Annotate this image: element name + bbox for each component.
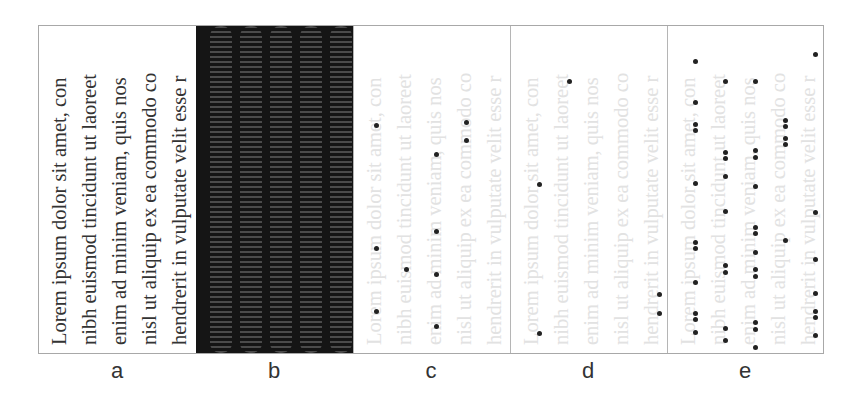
marker-dot [753,250,758,255]
rotated-faint-text-block: Lorem ipsum dolor sit amet, con nibh eui… [354,26,511,353]
marker-dot [537,182,542,187]
marker-dot [693,59,698,64]
figure: Lorem ipsum dolor sit amet, con nibh eui… [38,25,824,354]
text-line: nisl ut aliquip ex ea commodo co [606,73,636,345]
marker-dot [753,155,758,160]
panel-e-dots: Lorem ipsum dolor sit amet, con nibh eui… [667,26,825,353]
text-line: Lorem ipsum dolor sit amet, con [673,77,703,345]
marker-dot [723,174,728,179]
text-line: enim ad minim veniam, quis nos [419,77,449,345]
marker-dot [753,320,758,325]
marker-dot [753,274,758,279]
marker-dot [693,240,698,245]
text-line: nibh euismod tincidunt ut laoreet [389,74,419,345]
marker-dot [723,263,728,268]
marker-dot [567,79,572,84]
marker-dot [657,292,662,297]
rotated-text-block: Lorem ipsum dolor sit amet, con nibh eui… [39,26,196,353]
marker-dot [813,315,818,320]
marker-dot [723,79,728,84]
marker-dot [813,291,818,296]
marker-dot [783,142,788,147]
text-line: enim ad minim veniam, quis nos [104,77,134,345]
marker-dot [434,152,439,157]
marker-dot [537,331,542,336]
marker-dot [813,52,818,57]
panel-c-dots: Lorem ipsum dolor sit amet, con nibh eui… [353,26,511,353]
panel-b-fringe-image [196,26,353,353]
text-line: Lorem ipsum dolor sit amet, con [44,77,74,345]
fringe-stripe [270,26,292,353]
marker-dot [813,333,818,338]
panel-d-dots: Lorem ipsum dolor sit amet, con nibh eui… [510,26,668,353]
marker-dot [813,210,818,215]
marker-dot [693,246,698,251]
marker-dot [693,181,698,186]
text-line: Lorem ipsum dolor sit amet, con [516,77,546,345]
marker-dot [723,156,728,161]
marker-dot [783,136,788,141]
marker-dot [693,280,698,285]
marker-dot [693,100,698,105]
marker-dot [464,120,469,125]
text-line: hendrerit in vulputate velit esse r [479,76,509,345]
marker-dot [723,326,728,331]
marker-dot [813,257,818,262]
marker-dot [657,311,662,316]
marker-dot [693,330,698,335]
marker-dot [813,309,818,314]
text-line: hendrerit in vulputate velit esse r [793,76,823,345]
marker-dot [753,184,758,189]
marker-dot [374,246,379,251]
panel-label-d: d [568,358,608,384]
text-line: nibh euismod tincidunt ut laoreet [546,74,576,345]
text-line: nibh euismod tincidunt ut laoreet [703,74,733,345]
marker-dot [783,118,788,123]
text-line: hendrerit in vulputate velit esse r [164,76,194,345]
marker-dot [753,267,758,272]
fringe-stripe [330,26,352,353]
marker-dot [783,238,788,243]
fringe-stripe [300,26,322,353]
marker-dot [723,338,728,343]
marker-dot [783,124,788,129]
fringe-stripe [240,26,262,353]
marker-dot [753,225,758,230]
text-line: nisl ut aliquip ex ea commodo co [134,73,164,345]
marker-dot [434,229,439,234]
rotated-faint-text-block: Lorem ipsum dolor sit amet, con nibh eui… [668,26,825,353]
marker-dot [753,148,758,153]
marker-dot [723,150,728,155]
panel-label-e: e [725,358,765,384]
marker-dot [693,311,698,316]
marker-dot [723,270,728,275]
panel-label-c: c [411,358,451,384]
marker-dot [374,123,379,128]
marker-dot [434,324,439,329]
marker-dot [753,231,758,236]
text-line: hendrerit in vulputate velit esse r [636,76,666,345]
marker-dot [753,345,758,350]
fringe-stripe [210,26,232,353]
panel-label-b: b [254,358,294,384]
text-line: enim ad minim veniam, quis nos [733,77,763,345]
text-line: enim ad minim veniam, quis nos [576,77,606,345]
panel-a-original-text: Lorem ipsum dolor sit amet, con nibh eui… [39,26,196,353]
marker-dot [693,128,698,133]
marker-dot [693,122,698,127]
panel-label-a: a [97,358,137,384]
marker-dot [404,267,409,272]
marker-dot [434,272,439,277]
marker-dot [464,138,469,143]
marker-dot [693,317,698,322]
marker-dot [753,79,758,84]
rotated-faint-text-block: Lorem ipsum dolor sit amet, con nibh eui… [511,26,668,353]
marker-dot [753,327,758,332]
text-line: Lorem ipsum dolor sit amet, con [359,77,389,345]
marker-dot [723,209,728,214]
text-line: nisl ut aliquip ex ea commodo co [449,73,479,345]
text-line: nisl ut aliquip ex ea commodo co [763,73,793,345]
marker-dot [374,309,379,314]
text-line: nibh euismod tincidunt ut laoreet [74,74,104,345]
